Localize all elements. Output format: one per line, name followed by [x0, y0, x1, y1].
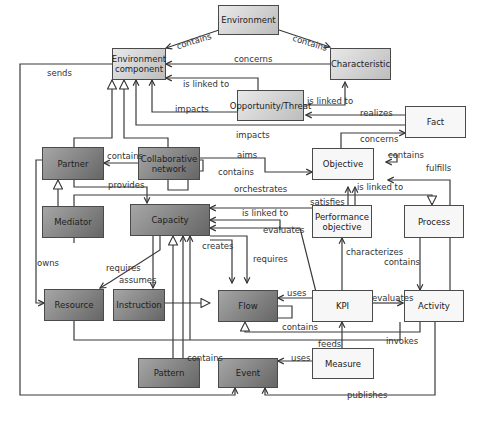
label-contains: contains	[388, 150, 424, 160]
node-process[interactable]: Process	[404, 205, 464, 238]
node-resource[interactable]: Resource	[44, 289, 104, 321]
node-environment-component[interactable]: Environment component	[112, 48, 166, 80]
node-partner[interactable]: Partner	[42, 147, 104, 180]
node-flow[interactable]: Flow	[218, 290, 278, 322]
label-is-linked-to: is linked to	[357, 182, 403, 192]
label-evaluates: evaluates	[372, 293, 413, 303]
label-provides: provides	[108, 180, 144, 190]
node-mediator[interactable]: Mediator	[42, 206, 104, 238]
label-sends: sends	[47, 68, 72, 78]
label-owns: owns	[37, 258, 59, 268]
label-assumes: assumes	[119, 275, 156, 285]
label-uses: uses	[287, 288, 306, 298]
label-is-linked-to: is linked to	[307, 96, 353, 106]
label-requires: requires	[106, 263, 141, 273]
label-contains: contains	[218, 167, 254, 177]
label-impacts: impacts	[175, 104, 209, 114]
node-collaborative-network[interactable]: Collaborative network	[138, 147, 200, 180]
node-instruction[interactable]: Instruction	[113, 289, 165, 321]
label-creates: creates	[202, 241, 233, 251]
label-impacts: impacts	[236, 130, 270, 140]
node-capacity[interactable]: Capacity	[130, 204, 210, 236]
label-publishes: publishes	[347, 390, 387, 400]
label-evaluates: evaluates	[263, 225, 304, 235]
node-environment[interactable]: Environment	[218, 5, 279, 35]
label-orchestrates: orchestrates	[234, 184, 287, 194]
label-requires: requires	[253, 254, 288, 264]
label-satisfies: satisfies	[310, 197, 345, 207]
label-contains: contains	[187, 353, 223, 363]
label-realizes: realizes	[360, 108, 393, 118]
label-is-linked-to: is linked to	[183, 79, 229, 89]
label-concerns: concerns	[234, 54, 272, 64]
label-is-linked-to: is linked to	[242, 208, 288, 218]
node-performance-objective[interactable]: Performance objective	[312, 205, 372, 238]
node-fact[interactable]: Fact	[405, 106, 466, 138]
label-invokes: invokes	[386, 336, 418, 346]
node-characteristic[interactable]: Characteristic	[330, 48, 391, 80]
label-feeds: feeds	[318, 339, 341, 349]
node-opportunity-threat[interactable]: Opportunity/Threat	[237, 90, 304, 121]
label-fulfills: fulfills	[426, 163, 451, 173]
label-contains: contains	[384, 257, 420, 267]
node-event[interactable]: Event	[218, 358, 278, 388]
node-objective[interactable]: Objective	[312, 148, 374, 180]
label-uses: uses	[291, 353, 310, 363]
label-aims: aims	[237, 150, 257, 160]
label-contains: contains	[107, 151, 143, 161]
node-kpi[interactable]: KPI	[312, 290, 373, 322]
label-contains: contains	[282, 322, 318, 332]
node-measure[interactable]: Measure	[312, 348, 374, 379]
label-concerns: concerns	[360, 134, 398, 144]
label-characterizes: characterizes	[346, 247, 403, 257]
